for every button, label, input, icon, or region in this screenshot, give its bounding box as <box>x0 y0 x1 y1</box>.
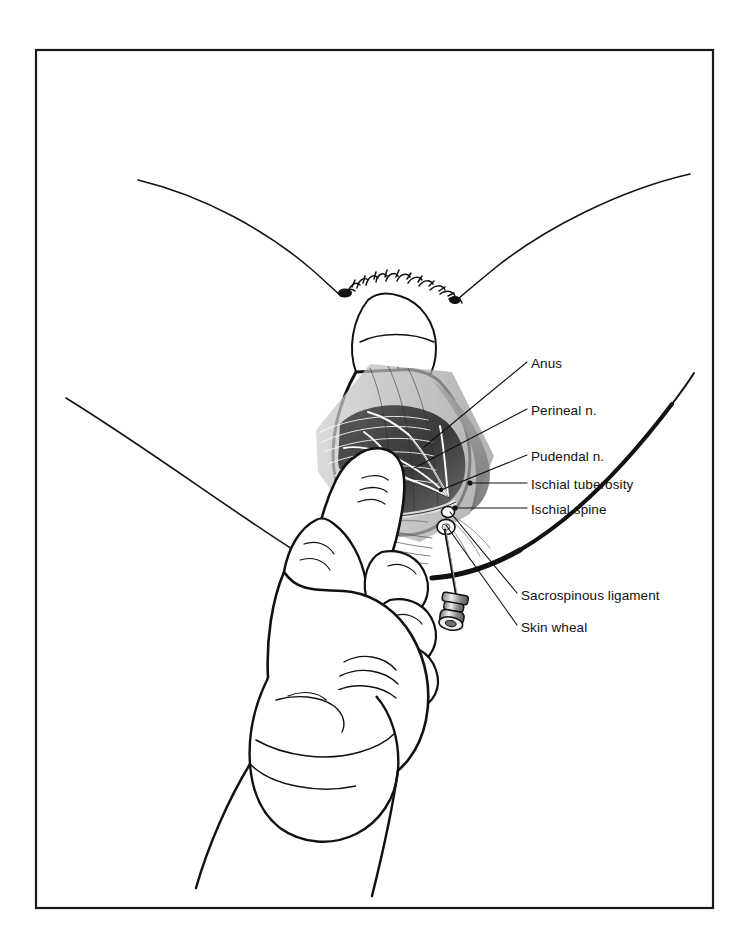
right-thigh-outline-thick <box>432 550 520 578</box>
gloved-examining-hand <box>196 448 438 896</box>
label-perineal-nerve: Perineal n. <box>531 404 597 418</box>
leader-sacrospinous-ligament <box>450 512 517 593</box>
right-upper-body-outline <box>458 174 690 299</box>
glove-cuff <box>250 678 399 842</box>
right-thigh-outline-tip <box>672 373 694 404</box>
illustration-figure: Anus Perineal n. Pudendal n. Ischial tub… <box>0 0 752 945</box>
needle-with-guide <box>437 507 469 633</box>
left-upper-body-outline <box>138 180 341 296</box>
label-ischial-tuberosity: Ischial tuberosity <box>531 478 633 492</box>
needle-hub <box>437 592 469 632</box>
label-sacrospinous-ligament: Sacrospinous ligament <box>521 589 660 603</box>
label-skin-wheal: Skin wheal <box>521 621 587 635</box>
label-pudendal-nerve: Pudendal n. <box>531 450 604 464</box>
needle-shaft <box>445 530 456 594</box>
anatomical-illustration <box>0 0 752 945</box>
label-anus: Anus <box>531 357 562 371</box>
label-ischial-spine: Ischial spine <box>531 503 607 517</box>
left-thigh-outline <box>66 398 300 554</box>
